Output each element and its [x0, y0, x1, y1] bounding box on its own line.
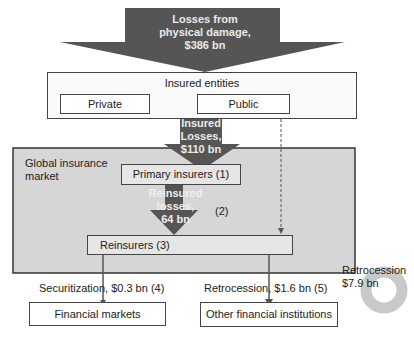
- retrocession-out-label: Retrocession, $1.6 bn (5): [204, 282, 328, 295]
- insured-arrow-label: Insured Losses, $110 bn: [176, 117, 226, 156]
- reinsured-line1: Reinsured: [148, 187, 203, 200]
- reinsurers-box: Reinsurers (3): [87, 235, 293, 255]
- global-market-line2: market: [25, 170, 108, 183]
- private-box: Private: [60, 94, 150, 114]
- public-box: Public: [197, 94, 290, 114]
- financial-markets-box: Financial markets: [29, 302, 166, 326]
- losses-arrow-label: Losses from physical damage, $386 bn: [150, 13, 260, 52]
- securitization-label: Securitization, $0.3 bn (4): [39, 282, 164, 295]
- retro-loop-line2: $7.9 bn: [342, 277, 406, 290]
- retro-loop-line1: Retrocession: [342, 264, 406, 277]
- losses-line3: $386 bn: [150, 39, 260, 52]
- retrocession-loop-label: Retrocession $7.9 bn: [342, 264, 406, 290]
- reinsured-arrow-label: Reinsured losses, 64 bn: [148, 187, 203, 226]
- global-market-label: Global insurance market: [25, 157, 108, 183]
- global-market-line1: Global insurance: [25, 157, 108, 170]
- insured-line2: Losses,: [176, 130, 226, 143]
- losses-line1: Losses from: [150, 13, 260, 26]
- insured-line1: Insured: [176, 117, 226, 130]
- reinsured-line2: losses,: [148, 200, 203, 213]
- losses-line2: physical damage,: [150, 26, 260, 39]
- insured-entities-title: Insured entities: [47, 77, 357, 90]
- other-institutions-box: Other financial institutions: [200, 302, 338, 327]
- primary-insurers-box: Primary insurers (1): [121, 164, 241, 185]
- reinsured-note: (2): [215, 205, 228, 218]
- insured-line3: $110 bn: [176, 143, 226, 156]
- reinsured-line3: 64 bn: [148, 213, 203, 226]
